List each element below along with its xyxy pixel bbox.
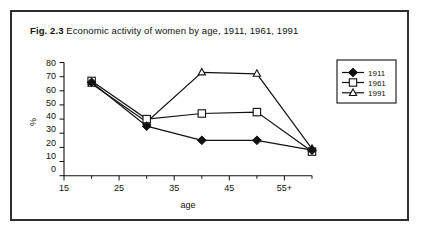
marker-1961-age40 [198,110,205,117]
y-tick-label-0: 0 [51,164,56,174]
y-tick-label-40: 40 [46,111,56,121]
marker-1911-age40 [197,136,206,145]
legend-box [337,60,396,103]
x-tick-label-25: 25 [114,183,124,193]
line-chart: % 80 70 60 50 40 30 20 10 0 [12,12,411,223]
legend-marker-1961 [349,79,356,86]
y-tick-label-80: 80 [46,58,56,68]
x-axis-label: age [180,200,195,210]
marker-1991-age50 [253,70,260,77]
marker-1991-age40 [198,68,205,75]
x-tick-label-55plus: 55+ [277,183,292,193]
figure-frame: Fig. 2.3 Economic activity of women by a… [10,10,409,221]
y-tick-label-60: 60 [46,85,56,95]
legend-label-1991: 1991 [368,89,386,98]
legend-label-1911: 1911 [368,69,386,78]
y-tick-label-30: 30 [46,124,56,134]
marker-1911-age50 [253,136,262,145]
y-tick-label-10: 10 [46,151,56,161]
y-axis-label: % [28,118,38,126]
chart-legend: 1911 1961 1991 [337,60,396,103]
chart-plot-area: % 80 70 60 50 40 30 20 10 0 [12,12,411,223]
y-tick-label-70: 70 [46,71,56,81]
x-tick-label-35: 35 [169,183,179,193]
legend-label-1961: 1961 [368,79,386,88]
marker-1961-age50 [253,108,260,115]
x-tick-label-45: 45 [224,183,234,193]
x-tick-label-15: 15 [59,183,69,193]
y-tick-label-20: 20 [46,138,56,148]
y-tick-label-50: 50 [46,98,56,108]
